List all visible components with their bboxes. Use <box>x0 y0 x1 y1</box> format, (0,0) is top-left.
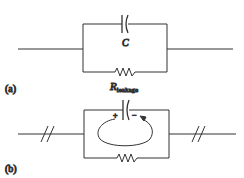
resistor-icon <box>115 68 135 76</box>
plus-sign: + <box>113 111 118 120</box>
circuit-diagram: C Rleakage (a) (b) + − <box>0 0 244 178</box>
capacitor-curved-plate <box>126 15 128 33</box>
figure-a-label: (a) <box>5 83 16 95</box>
current-loop-arrow <box>98 119 152 146</box>
circuit-b <box>18 100 236 162</box>
resistor-label: Rleakage <box>109 80 138 94</box>
resistor-icon <box>117 154 137 162</box>
minus-sign: − <box>132 111 137 120</box>
capacitor-label: C <box>122 37 129 48</box>
figure-b-label: (b) <box>5 163 17 175</box>
